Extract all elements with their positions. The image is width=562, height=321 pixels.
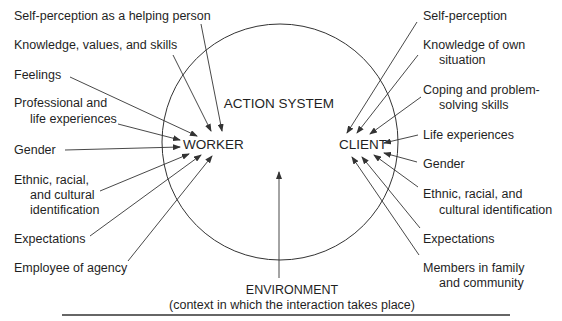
- client-influence-label: Members in family: [423, 261, 525, 275]
- worker-influence-label: Knowledge, values, and skills: [14, 38, 177, 52]
- client-influences: Self-perception Knowledge of own situati…: [423, 9, 552, 290]
- worker-influence-label: Feelings: [14, 68, 61, 82]
- arrow-icon: [65, 147, 180, 150]
- client-influence-label: Gender: [423, 157, 465, 171]
- worker-influence-label: Self-perception as a helping person: [14, 9, 211, 23]
- client-influence-label: situation: [439, 53, 486, 67]
- client-influence-label: Ethnic, racial, and: [423, 187, 522, 201]
- environment-label: ENVIRONMENT: [246, 283, 339, 297]
- client-influence-label: Expectations: [423, 232, 495, 246]
- worker-influences: Self-perception as a helping person Know…: [14, 9, 211, 275]
- arrow-icon: [384, 135, 418, 143]
- client-node-label: CLIENT: [339, 137, 387, 152]
- arrow-icon: [173, 55, 211, 131]
- arrow-icon: [128, 156, 212, 261]
- worker-influence-label: Expectations: [14, 232, 86, 246]
- client-influence-label: Self-perception: [423, 9, 507, 23]
- arrow-icon: [118, 124, 180, 140]
- arrow-icon: [100, 154, 189, 191]
- arrow-icon: [384, 153, 417, 162]
- client-influence-label: solving skills: [439, 98, 508, 112]
- arrow-icon: [374, 155, 418, 187]
- arrow-icon: [347, 22, 417, 133]
- client-influence-label: Life experiences: [423, 128, 514, 142]
- arrow-icon: [370, 97, 421, 134]
- client-influence-label: Knowledge of own: [423, 38, 525, 52]
- action-system-diagram: ACTION SYSTEM WORKER CLIENT Self-percept…: [0, 0, 562, 321]
- client-influence-label: cultural identification: [439, 203, 552, 217]
- worker-influence-label: life experiences: [30, 112, 117, 126]
- action-system-label: ACTION SYSTEM: [224, 96, 334, 111]
- client-influence-label: and community: [439, 276, 525, 290]
- worker-influence-label: identification: [30, 203, 100, 217]
- arrow-icon: [90, 155, 201, 236]
- arrow-icon: [352, 157, 419, 255]
- arrow-icon: [201, 24, 222, 131]
- worker-influence-label: and cultural: [30, 188, 95, 202]
- worker-influence-label: Ethnic, racial,: [14, 173, 89, 187]
- environment-sublabel: (context in which the interaction takes …: [169, 298, 415, 312]
- worker-influence-label: Employee of agency: [14, 261, 128, 275]
- client-influence-label: Coping and problem-: [423, 83, 540, 97]
- worker-influence-label: Gender: [14, 143, 56, 157]
- worker-influence-label: Professional and: [14, 96, 107, 110]
- worker-node-label: WORKER: [183, 137, 244, 152]
